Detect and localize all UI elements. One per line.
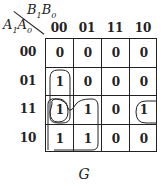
map-title: G [0, 166, 168, 182]
grouping-loops [0, 0, 168, 190]
group-loop-wrap [136, 101, 157, 123]
group-loop-quad [48, 99, 98, 150]
group-loop-inner [50, 99, 68, 122]
group-loop-vertical-pair [50, 70, 70, 123]
